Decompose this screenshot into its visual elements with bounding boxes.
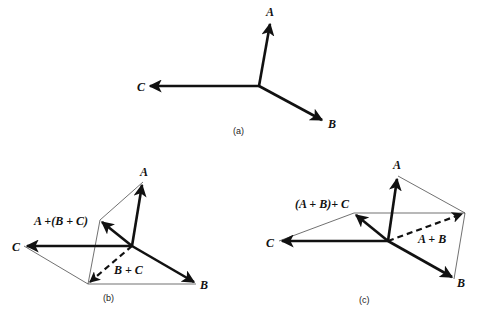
label-b-plus-c: B + C [113,263,144,277]
label-b: B [327,117,336,131]
label-a: A [392,158,401,172]
label-a: A [265,5,274,19]
vector-addition-figure: A C B (a) A C B B + C A +(B + C) (b) [0,0,479,317]
label-b: B [456,276,465,290]
diagram-b: A C B B + C A +(B + C) (b) [12,165,208,303]
resultant-arrow [356,215,388,241]
construction-line [398,176,465,213]
resultant-arrow [102,222,132,246]
vector-b-arrow [259,86,322,120]
construction-line [24,246,88,284]
vector-a-arrow [132,185,142,246]
diagram-a: A C B (a) [137,5,336,136]
label-c: C [137,80,146,94]
label-a: A [139,165,148,179]
label-c: C [266,236,275,250]
caption-a: (a) [233,126,244,136]
construction-line [279,213,354,241]
label-b: B [199,278,208,292]
label-a-plus-b-plus-c: (A + B)+ C [295,197,350,211]
label-c: C [12,240,21,254]
vector-b-arrow [388,241,452,277]
label-a-plus-b: A + B [417,232,446,246]
caption-c: (c) [359,295,370,305]
caption-b: (b) [103,293,114,303]
diagram-c: A C B A + B (A + B)+ C (c) [266,158,465,305]
vector-a-arrow [388,179,397,241]
label-a-plus-b-plus-c: A +(B + C) [33,214,88,228]
vector-a-arrow [259,24,270,86]
construction-line [454,213,465,279]
